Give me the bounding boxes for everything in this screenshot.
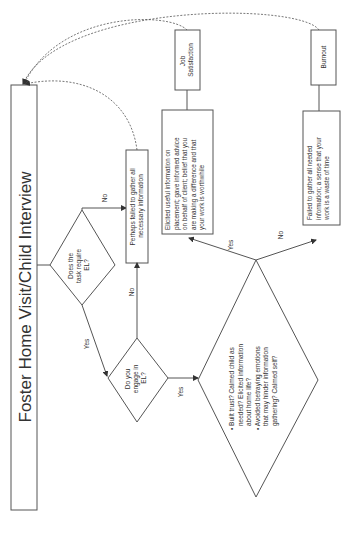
decision-engage-line: engage in <box>132 364 140 393</box>
elicited-line: your work is worthwhile <box>198 164 206 230</box>
label-task-yes: Yes <box>83 338 90 349</box>
label-task-no: No <box>101 193 108 202</box>
bullet-1-line: needed? Elicited information <box>237 344 244 426</box>
bullet-2-line: that may hinder information <box>262 347 270 426</box>
failed-all-box: Failed to gather all needed information;… <box>303 111 340 225</box>
decision-outcome: • Built trust? Calmed child as needed? E… <box>198 260 318 497</box>
burnout-text: Burnout <box>320 45 327 68</box>
burnout-box: Burnout <box>311 30 336 85</box>
elicited-line: are making a difference and that <box>190 140 198 230</box>
elicited-line: Elicited useful information on <box>164 149 171 230</box>
edge-task-no <box>82 208 126 210</box>
decision-task-line: task require <box>75 249 83 283</box>
elicited-line: placement; gave informed advice <box>173 137 181 230</box>
feedback-arc-perhaps <box>25 81 137 150</box>
svg-text:Perhaps failed to gather all: Perhaps failed to gather all necessary i… <box>129 166 145 245</box>
decision-engage-line: EL? <box>140 372 147 384</box>
label-engage-yes: Yes <box>177 386 184 397</box>
flowchart: Foster Home Visit/Child Interview Does t… <box>0 0 341 540</box>
failed-all-line: work is a waste of time <box>323 156 330 221</box>
edge-outcome-yes <box>189 238 256 260</box>
failed-all-line: Failed to gather all needed <box>306 145 314 220</box>
label-engage-no: No <box>128 287 135 296</box>
perhaps-failed-box: Perhaps failed to gather all necessary i… <box>126 150 148 263</box>
elicited-line: on behalf of client; belief that you <box>181 137 189 230</box>
title-box: Foster Home Visit/Child Interview <box>11 85 37 510</box>
decision-task-line: EL? <box>83 259 90 271</box>
decision-task-requires-el: Does the task require EL? <box>50 210 115 305</box>
failed-all-line: information; a sense that your <box>315 137 323 220</box>
bullet-1-line: • Built trust? Calmed child as <box>228 346 235 430</box>
failed-gather-line: necessary information <box>137 174 145 238</box>
label-outcome-yes: Yes <box>227 239 234 250</box>
feedback-arc-burnout <box>23 13 319 84</box>
failed-gather-line: Perhaps failed to gather all <box>129 168 137 246</box>
bullet-2-line: • Avoided betraying emotions <box>254 345 262 430</box>
job-satisfaction-line: Satisfaction <box>187 43 194 77</box>
job-satisfaction-box: Job Satisfaction <box>175 30 200 90</box>
bullet-2-line: gathering? Calmed self? <box>271 355 279 426</box>
label-outcome-no: No <box>277 230 284 239</box>
job-satisfaction-line: Job <box>179 55 186 66</box>
elicited-info-box: Elicited useful information on placement… <box>162 110 213 234</box>
title-text: Foster Home Visit/Child Interview <box>16 171 35 423</box>
decision-engage-in-el: Do you engage in EL? <box>108 338 168 422</box>
edge-outcome-no <box>256 240 316 260</box>
decision-task-line: Does the <box>67 253 74 279</box>
bullet-1-line: about home life? <box>245 378 252 426</box>
decision-engage-line: Do you <box>124 368 132 389</box>
